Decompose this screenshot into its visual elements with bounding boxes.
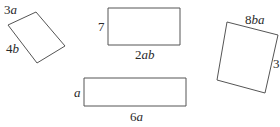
label-6a: 6a xyxy=(130,109,144,124)
shape-top-rectangle: 7 2ab xyxy=(98,8,180,62)
rectangle-top xyxy=(108,8,180,45)
label-4b: 4b xyxy=(6,41,20,56)
label-2ab: 2ab xyxy=(135,47,155,62)
label-a: a xyxy=(74,85,81,100)
shape-right-rotated-square: 8ba 3 xyxy=(217,12,280,93)
shape-bottom-rectangle: a 6a xyxy=(74,78,186,124)
rectangle-bottom xyxy=(84,78,186,106)
area-diagram: 3a 4b 7 2ab 8ba 3 a 6a xyxy=(0,0,280,127)
label-3: 3 xyxy=(273,56,280,71)
label-7: 7 xyxy=(98,19,105,34)
shape-left-rotated-rectangle: 3a 4b xyxy=(4,2,65,63)
label-3a: 3a xyxy=(4,2,18,17)
label-8ba: 8ba xyxy=(245,12,265,27)
rotated-square-right xyxy=(217,22,278,93)
